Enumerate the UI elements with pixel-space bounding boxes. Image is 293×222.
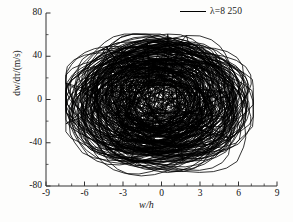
x-tick-label: 6 (225, 189, 253, 199)
y-tick-label: 0 (37, 95, 42, 105)
x-axis-title: w/h (0, 199, 293, 210)
trajectory-path (66, 34, 253, 176)
x-tick-label: 0 (148, 189, 176, 199)
x-axis-title-numerator: w (139, 199, 146, 210)
y-tick-label: 40 (33, 51, 43, 61)
x-tick-label: 3 (186, 189, 214, 199)
phase-portrait-figure: λ=8 250 80400-40-80 -9-6-30369 w/h dw/dτ… (0, 0, 293, 222)
y-axis-title: dw/dτ/(m/s) (12, 18, 22, 128)
x-tick-label: -9 (32, 189, 60, 199)
y-tick-label: 80 (33, 8, 43, 18)
x-tick-label: 9 (263, 189, 291, 199)
legend-label: λ=8 250 (210, 6, 242, 16)
y-tick-label: -40 (29, 138, 42, 148)
x-tick-label: -6 (71, 189, 99, 199)
legend: λ=8 250 (180, 6, 242, 16)
x-axis-title-denominator: h (149, 199, 154, 210)
legend-line-swatch (180, 11, 206, 12)
trajectory-layer (66, 34, 253, 176)
x-tick-label: -3 (109, 189, 137, 199)
